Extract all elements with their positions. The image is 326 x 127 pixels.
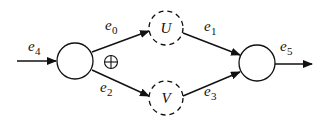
- node-U-label: U: [161, 20, 173, 36]
- svg-text:3: 3: [211, 90, 217, 102]
- label-e3: e 3: [204, 83, 217, 102]
- source-node: [57, 43, 93, 79]
- label-e2: e 2: [100, 79, 113, 98]
- svg-text:2: 2: [107, 86, 113, 98]
- sink-node: [239, 45, 275, 81]
- svg-text:1: 1: [211, 25, 217, 37]
- svg-text:5: 5: [287, 45, 293, 57]
- svg-text:e: e: [28, 38, 35, 54]
- svg-text:e: e: [105, 17, 112, 33]
- edge-e0: [92, 31, 149, 52]
- svg-text:e: e: [204, 18, 211, 34]
- svg-text:e: e: [280, 38, 287, 54]
- svg-text:e: e: [204, 83, 211, 99]
- label-e4: e 4: [28, 38, 41, 57]
- svg-text:0: 0: [112, 24, 118, 36]
- label-e1: e 1: [204, 18, 217, 37]
- svg-text:4: 4: [35, 45, 41, 57]
- svg-text:e: e: [100, 79, 107, 95]
- label-e5: e 5: [280, 38, 293, 57]
- xor-operator-icon: [105, 56, 118, 69]
- label-e0: e 0: [105, 17, 118, 36]
- flow-diagram: U V e 4 e 0 e 2 e 1 e 3 e 5: [0, 0, 326, 127]
